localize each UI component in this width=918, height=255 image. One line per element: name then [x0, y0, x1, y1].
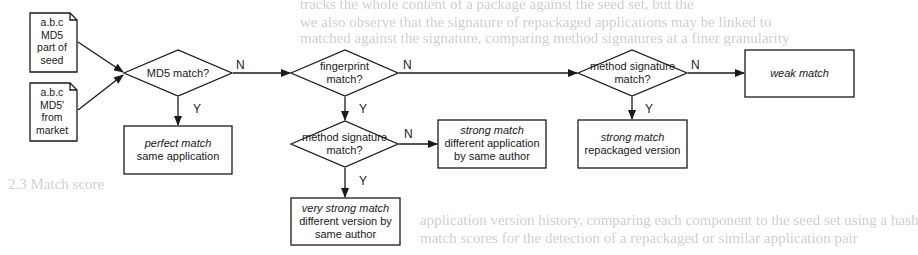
edge-label-yes: Y — [645, 102, 653, 116]
edge-label-no: N — [403, 58, 412, 72]
outcome-title: very strong match — [291, 202, 400, 215]
outcome-strong-repackaged-label: strong match repackaged version — [578, 131, 687, 157]
edge-label-yes: Y — [193, 102, 201, 116]
text-line: method signature — [578, 60, 687, 73]
edge-label-yes: Y — [359, 174, 367, 188]
outcome-title: perfect match — [124, 137, 232, 150]
text-line: fingerprint — [291, 60, 398, 73]
outcome-detail: same author — [291, 228, 400, 241]
outcome-detail: repackaged version — [578, 144, 687, 157]
text-line: MD5 match? — [124, 67, 232, 80]
outcome-title: strong match — [578, 131, 687, 144]
decision-fingerprint-label: fingerprint match? — [291, 60, 398, 86]
text-line: market — [30, 124, 74, 137]
outcome-detail: different version by — [291, 215, 400, 228]
text-line: match? — [291, 73, 398, 86]
decision-method-sig-market-label: method signature match? — [578, 60, 687, 86]
text-line: match? — [578, 73, 687, 86]
edge-label-yes: Y — [359, 102, 367, 116]
decision-method-sig-author-label: method signature match? — [291, 131, 398, 157]
text-line: MD5' — [30, 99, 74, 112]
edge-label-no: N — [691, 58, 700, 72]
outcome-detail: different application — [438, 137, 546, 150]
edge-label-no: N — [404, 127, 413, 141]
outcome-strong-author-label: strong match different application by sa… — [438, 124, 546, 163]
outcome-title: strong match — [438, 124, 546, 137]
outcome-title: weak match — [745, 67, 854, 80]
text-line: a.b.c — [30, 16, 74, 29]
text-line: a.b.c — [30, 86, 74, 99]
text-line: seed — [30, 54, 74, 67]
text-line: from — [30, 111, 74, 124]
text-line: MD5 — [30, 29, 74, 42]
outcome-detail: same application — [124, 150, 232, 163]
edge-label-no: N — [236, 58, 245, 72]
outcome-detail: by same author — [438, 150, 546, 163]
decision-md5-label: MD5 match? — [124, 67, 232, 80]
text-line: method signature — [291, 131, 398, 144]
text-line: part of — [30, 41, 74, 54]
outcome-very-strong-label: very strong match different version by s… — [291, 202, 400, 241]
text-line: match? — [291, 144, 398, 157]
outcome-perfect-label: perfect match same application — [124, 137, 232, 163]
input-doc-seed-label: a.b.c MD5 part of seed — [30, 16, 74, 66]
outcome-weak-label: weak match — [745, 67, 854, 80]
input-doc-market-label: a.b.c MD5' from market — [30, 86, 74, 136]
